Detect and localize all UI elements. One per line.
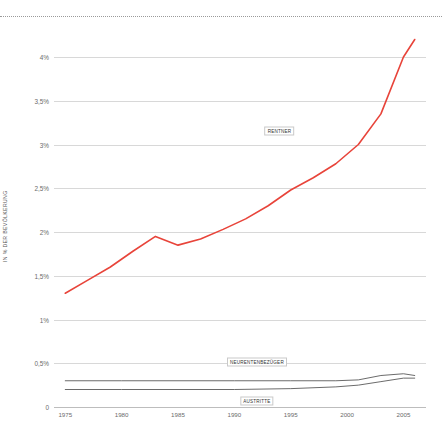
x-tick-label: 2005: [397, 411, 411, 418]
y-tick-label: 0,5%: [34, 360, 49, 367]
y-tick-label: 2,5%: [34, 185, 49, 192]
gridline: [54, 407, 426, 408]
series-line: [65, 374, 414, 381]
y-tick-label: 3,5%: [34, 97, 49, 104]
series-label: RENTNER: [265, 127, 295, 136]
top-divider: [0, 16, 442, 17]
y-tick-label: 1%: [40, 316, 49, 323]
y-tick-label: 2%: [40, 229, 49, 236]
x-tick-label: 1990: [227, 411, 241, 418]
x-tick-label: 1995: [284, 411, 298, 418]
plot-area: 00,5%1%1,5%2%2,5%3%3,5%4% 19751980198519…: [54, 22, 426, 407]
x-tick-label: 1985: [171, 411, 185, 418]
x-tick-label: 1975: [58, 411, 72, 418]
x-tick-label: 2000: [340, 411, 354, 418]
y-tick-label: 0: [45, 404, 49, 411]
x-tick-label: 1980: [115, 411, 129, 418]
chart-container: IN % DER BEVÖLKERUNG 00,5%1%1,5%2%2,5%3%…: [0, 0, 442, 444]
y-tick-label: 3%: [40, 141, 49, 148]
series-line: [65, 378, 414, 389]
series-line: [65, 40, 414, 294]
y-tick-label: 4%: [40, 54, 49, 61]
series-label: AUSTRITTE: [240, 396, 273, 405]
series-lines: [54, 22, 426, 407]
series-label: NEURENTENBEZÜGER: [227, 357, 287, 366]
y-axis-label: IN % DER BEVÖLKERUNG: [2, 132, 8, 262]
y-tick-label: 1,5%: [34, 272, 49, 279]
